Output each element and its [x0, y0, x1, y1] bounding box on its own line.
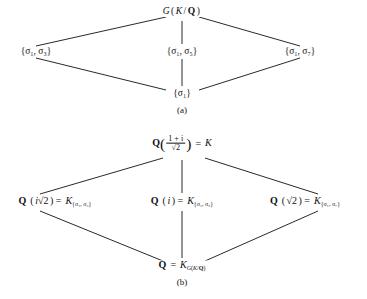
edge-b-top-right: [205, 158, 318, 194]
edge-b-right-bottom: [205, 211, 318, 261]
edge-b-top-left: [40, 158, 163, 194]
node-b-bottom: Q = KG(K/Q): [157, 260, 208, 271]
node-b-top: Q(1 + i√2) = K: [150, 135, 214, 154]
edge-a-right-bottom: [199, 58, 300, 90]
node-b-middle-right: Q (√2) = K{σ₁, σ₇}: [268, 196, 342, 207]
caption-a: (a): [177, 105, 187, 115]
node-a-bottom: {σ₁}: [171, 89, 193, 99]
edge-a-top-left: [36, 17, 166, 46]
node-b-middle-center-subscript: {σ₁, σ₅}: [194, 201, 213, 207]
node-a-middle-right: {σ₁, σ₇}: [283, 47, 318, 57]
node-b-top-denominator: √2: [166, 143, 185, 153]
figure-canvas: G(K/Q) {σ₁, σ₃} {σ₁, σ₅} {σ₁, σ₇} {σ₁} (…: [0, 0, 367, 299]
caption-b: (b): [177, 277, 188, 287]
edge-b-left-bottom: [40, 211, 163, 261]
node-b-middle-right-subscript: {σ₁, σ₇}: [321, 201, 340, 207]
node-b-top-numerator: 1 + i: [166, 134, 185, 143]
edge-a-left-bottom: [36, 58, 166, 90]
node-b-middle-left: Q (i√2) = K{σ₁, σ₃}: [17, 196, 94, 207]
node-a-top: G(K/Q): [161, 7, 204, 17]
node-b-bottom-subscript: G(K/Q): [187, 265, 206, 271]
edge-a-top-right: [199, 17, 300, 46]
node-b-middle-left-subscript: {σ₁, σ₃}: [72, 201, 91, 207]
node-b-middle-center: Q (i) = K{σ₁, σ₅}: [149, 196, 215, 207]
node-a-middle-center: {σ₁, σ₅}: [165, 47, 200, 57]
node-a-middle-left: {σ₁, σ₃}: [19, 47, 54, 57]
